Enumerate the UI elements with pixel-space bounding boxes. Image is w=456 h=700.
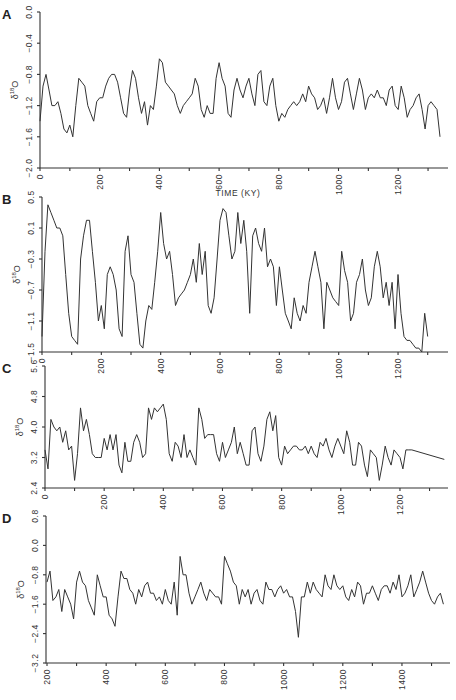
x-tick-label: 0 bbox=[35, 174, 45, 179]
data-line bbox=[40, 59, 440, 137]
data-line bbox=[47, 556, 443, 637]
x-tick-label: 1000 bbox=[279, 669, 289, 690]
x-tick-label: 1400 bbox=[397, 669, 407, 690]
axis-frame bbox=[45, 366, 448, 488]
y-tick-label: −1.2 bbox=[24, 96, 34, 115]
x-tick-label: 200 bbox=[99, 494, 109, 510]
y-tick-label: −0.8 bbox=[24, 65, 34, 84]
y-axis-label: δ18O bbox=[15, 580, 26, 599]
y-axis-label: δ18O bbox=[11, 265, 22, 284]
y-tick-label: 3.2 bbox=[29, 451, 39, 464]
y-tick-label: 0.1 bbox=[26, 221, 36, 234]
x-tick-label: 1200 bbox=[393, 174, 403, 195]
x-tick-label: 400 bbox=[158, 494, 168, 510]
x-tick-label: 0 bbox=[40, 494, 50, 499]
y-tick-label: 0.5 bbox=[26, 190, 36, 203]
x-tick-label: 800 bbox=[274, 174, 284, 190]
panel-letter: A bbox=[2, 7, 12, 22]
y-tick-label: −2.0 bbox=[24, 159, 34, 178]
x-tick-label: 1200 bbox=[338, 669, 348, 690]
y-tick-label: −3.2 bbox=[30, 654, 40, 673]
y-axis-label: δ18O bbox=[9, 81, 20, 100]
y-tick-label: 0.0 bbox=[30, 539, 40, 552]
x-tick-label: 1000 bbox=[334, 174, 344, 195]
y-tick-label: −2.4 bbox=[30, 624, 40, 643]
x-tick-label: 1200 bbox=[393, 358, 403, 379]
x-axis-title: TIME (KY) bbox=[215, 188, 260, 198]
x-tick-label: 200 bbox=[95, 174, 105, 190]
y-tick-label: −0.4 bbox=[24, 34, 34, 53]
x-tick-label: 1200 bbox=[395, 494, 405, 515]
x-tick-label: 200 bbox=[42, 669, 52, 685]
y-tick-label: 4.8 bbox=[29, 390, 39, 403]
x-tick-label: 800 bbox=[274, 358, 284, 374]
x-tick-label: 800 bbox=[219, 669, 229, 685]
x-tick-label: 1000 bbox=[334, 358, 344, 379]
panel-a: −2.0−1.6−1.2−0.8−0.40.002004006008001000… bbox=[2, 5, 448, 198]
x-tick-label: 1000 bbox=[336, 494, 346, 515]
panel-letter: D bbox=[2, 511, 11, 526]
x-tick-label: 400 bbox=[156, 358, 166, 374]
y-tick-label: −0.3 bbox=[26, 250, 36, 269]
figure-canvas: −2.0−1.6−1.2−0.8−0.40.002004006008001000… bbox=[0, 0, 456, 700]
y-tick-label: −1.5 bbox=[26, 343, 36, 362]
y-tick-label: −1.6 bbox=[30, 595, 40, 614]
x-tick-label: 600 bbox=[160, 669, 170, 685]
y-tick-label: 2.4 bbox=[29, 481, 39, 494]
x-tick-label: 800 bbox=[277, 494, 287, 510]
y-tick-label: −1.6 bbox=[24, 127, 34, 146]
y-tick-label: −0.8 bbox=[30, 565, 40, 584]
x-tick-label: 400 bbox=[101, 669, 111, 685]
panel-c: 2.43.24.04.85.6020040060080010001200Cδ18… bbox=[2, 359, 448, 515]
x-tick-label: 600 bbox=[215, 358, 225, 374]
y-axis-label: δ18O bbox=[14, 418, 25, 437]
x-tick-label: 200 bbox=[96, 358, 106, 374]
x-tick-label: 400 bbox=[154, 174, 164, 190]
panel-letter: B bbox=[2, 192, 11, 207]
y-tick-label: 4.0 bbox=[29, 420, 39, 433]
y-tick-label: −1.1 bbox=[26, 312, 36, 331]
y-tick-label: 0.0 bbox=[24, 5, 34, 18]
axis-frame bbox=[40, 12, 448, 168]
axis-frame bbox=[42, 197, 448, 352]
data-line bbox=[42, 205, 428, 352]
data-line bbox=[45, 404, 444, 480]
y-tick-label: 5.6 bbox=[29, 359, 39, 372]
panel-b: −1.5−1.1−0.7−0.30.10.5020040060080010001… bbox=[2, 190, 448, 379]
y-tick-label: −0.7 bbox=[26, 281, 36, 300]
panel-letter: C bbox=[2, 361, 12, 376]
y-tick-label: 0.8 bbox=[30, 509, 40, 522]
panel-d: −3.2−2.4−1.6−0.80.00.8200400600800100012… bbox=[2, 509, 450, 690]
x-tick-label: 600 bbox=[217, 494, 227, 510]
